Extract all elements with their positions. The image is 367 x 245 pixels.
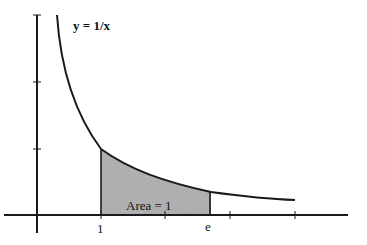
x-label-e: e (205, 219, 211, 234)
function-label: y = 1/x (73, 18, 111, 33)
x-label-1: 1 (97, 221, 104, 236)
graph: y = 1/x Area = 1 1 e (0, 0, 367, 245)
area-label: Area = 1 (126, 198, 172, 213)
curve-1-over-x (57, 15, 295, 200)
